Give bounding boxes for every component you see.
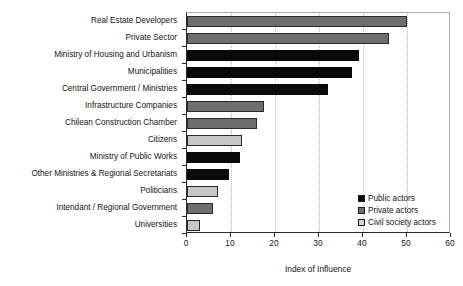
y-axis-category-labels: Real Estate DevelopersPrivate SectorMini…	[0, 12, 181, 233]
y-axis-label: Central Government / Ministries	[0, 84, 181, 93]
y-axis-label: Ministry of Housing and Urbanism	[0, 50, 181, 59]
legend-label: Civil society actors	[368, 218, 436, 227]
bar	[187, 50, 359, 61]
y-axis-tick	[182, 29, 186, 30]
x-axis-tick-label: 20	[269, 238, 278, 248]
chart-legend: Public actorsPrivate actorsCivil society…	[358, 193, 460, 229]
legend-swatch-icon	[358, 219, 365, 226]
legend-label: Private actors	[368, 206, 418, 215]
bar-row	[187, 13, 451, 30]
y-axis-label: Other Ministries & Regional Secretariats	[0, 169, 181, 178]
bar	[187, 152, 240, 163]
y-axis-tick	[182, 80, 186, 81]
bar	[187, 186, 218, 197]
y-axis-tick	[182, 182, 186, 183]
x-axis-ticks: 0102030405060	[0, 233, 463, 263]
x-axis-title: Index of Influence	[186, 264, 450, 274]
bar-row	[187, 47, 451, 64]
bar	[187, 135, 242, 146]
y-axis-label: Chilean Construction Chamber	[0, 118, 181, 127]
legend-label: Public actors	[368, 194, 415, 203]
bar	[187, 67, 352, 78]
y-axis-tick	[182, 165, 186, 166]
bar	[187, 169, 229, 180]
bar-row	[187, 30, 451, 47]
legend-item-public: Public actors	[358, 193, 460, 204]
x-axis-tick	[274, 233, 275, 237]
bar	[187, 203, 213, 214]
bar	[187, 101, 264, 112]
y-axis-label: Citizens	[0, 135, 181, 144]
x-axis-tick-label: 0	[184, 238, 189, 248]
y-axis-tick	[182, 46, 186, 47]
y-axis-label: Municipalities	[0, 67, 181, 76]
bar	[187, 118, 257, 129]
y-axis-tick	[182, 148, 186, 149]
bar-row	[187, 166, 451, 183]
y-axis-tick	[182, 131, 186, 132]
y-axis-tick	[182, 216, 186, 217]
bar-row	[187, 81, 451, 98]
bar-row	[187, 149, 451, 166]
legend-item-civil: Civil society actors	[358, 217, 460, 228]
bar-row	[187, 64, 451, 81]
y-axis-tick	[182, 97, 186, 98]
legend-swatch-icon	[358, 195, 365, 202]
bar-row	[187, 132, 451, 149]
y-axis-label: Ministry of Public Works	[0, 152, 181, 161]
x-axis-tick-label: 60	[445, 238, 454, 248]
x-axis-tick	[318, 233, 319, 237]
y-axis-tick	[182, 63, 186, 64]
x-axis-tick	[362, 233, 363, 237]
y-axis-tick	[182, 114, 186, 115]
legend-item-private: Private actors	[358, 205, 460, 216]
x-axis-tick-label: 10	[225, 238, 234, 248]
y-axis-label: Universities	[0, 220, 181, 229]
x-axis-tick-label: 40	[357, 238, 366, 248]
y-axis-label: Intendant / Regional Government	[0, 203, 181, 212]
y-axis-tick	[182, 199, 186, 200]
legend-swatch-icon	[358, 207, 365, 214]
bar	[187, 16, 407, 27]
y-axis-label: Real Estate Developers	[0, 16, 181, 25]
x-axis-tick	[230, 233, 231, 237]
influence-bar-chart: Real Estate DevelopersPrivate SectorMini…	[0, 0, 463, 286]
bar-row	[187, 98, 451, 115]
bar	[187, 33, 389, 44]
bar-row	[187, 115, 451, 132]
x-axis-tick	[406, 233, 407, 237]
x-axis-tick	[450, 233, 451, 237]
y-axis-label: Politicians	[0, 186, 181, 195]
y-axis-label: Infrastructure Companies	[0, 101, 181, 110]
bar	[187, 220, 200, 231]
x-axis-tick-label: 30	[313, 238, 322, 248]
x-axis-tick	[186, 233, 187, 237]
bar	[187, 84, 328, 95]
x-axis-tick-label: 50	[401, 238, 410, 248]
y-axis-label: Private Sector	[0, 33, 181, 42]
